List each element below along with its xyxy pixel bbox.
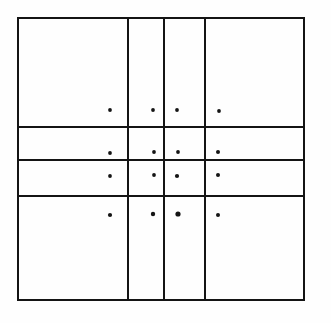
- dot-r1c1: [108, 108, 112, 112]
- dot-r3c2: [152, 173, 156, 177]
- grid-diagram: [0, 0, 331, 323]
- dot-r4c2: [151, 212, 155, 216]
- dot-r3c4: [216, 173, 220, 177]
- dot-r2c2: [152, 150, 156, 154]
- dot-r2c1: [108, 151, 112, 155]
- dot-r1c3: [175, 108, 179, 112]
- dot-r3c3: [175, 174, 179, 178]
- dot-r2c4: [216, 150, 220, 154]
- figure-group: [0, 0, 331, 323]
- dot-r1c2: [151, 108, 155, 112]
- figure-background: [0, 0, 331, 323]
- dot-r4c3: [175, 211, 180, 216]
- dot-r3c1: [108, 174, 112, 178]
- figure-canvas: [0, 0, 331, 323]
- dot-r2c3: [176, 150, 180, 154]
- dot-r1c4: [217, 109, 221, 113]
- dot-r4c4: [216, 213, 220, 217]
- dot-r4c1: [108, 213, 112, 217]
